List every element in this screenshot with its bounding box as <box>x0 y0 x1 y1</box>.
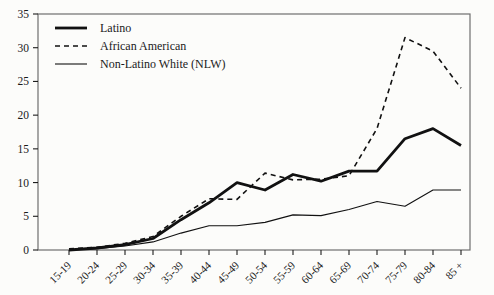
x-tick-label: 45-49 <box>215 259 242 286</box>
y-tick-label: 5 <box>23 210 29 222</box>
line-chart: 0510152025303515-1920-2425-2930-3435-394… <box>0 0 494 295</box>
x-tick-label: 80-84 <box>411 259 438 286</box>
x-tick-label: 15-19 <box>47 259 74 286</box>
y-tick-label: 15 <box>18 143 30 155</box>
y-tick-label: 0 <box>23 244 29 256</box>
legend-label-latino: Latino <box>100 21 131 35</box>
y-tick-label: 10 <box>18 177 30 189</box>
series-line-non-latino-white-nlw <box>69 190 461 250</box>
legend-label-non-latino-white-nlw: Non-Latino White (NLW) <box>100 57 226 71</box>
x-tick-label: 55-59 <box>271 259 298 286</box>
y-tick-label: 20 <box>18 109 30 121</box>
legend-label-african-american: African American <box>100 39 186 53</box>
x-tick-label: 20-24 <box>75 259 102 286</box>
figure: 0510152025303515-1920-2425-2930-3435-394… <box>0 0 494 295</box>
series-line-latino <box>69 129 461 250</box>
x-tick-label: 50-54 <box>243 259 270 286</box>
x-tick-label: 70-74 <box>355 259 382 286</box>
y-tick-label: 30 <box>18 42 30 54</box>
x-tick-label: 35-39 <box>159 259 186 286</box>
x-tick-label: 25-29 <box>103 259 130 286</box>
x-tick-label: 40-44 <box>187 259 214 286</box>
y-tick-label: 35 <box>18 8 30 20</box>
x-tick-label: 30-34 <box>131 259 158 286</box>
x-tick-label: 60-64 <box>299 259 326 286</box>
y-tick-label: 25 <box>18 75 30 87</box>
x-tick-label: 85 + <box>443 259 466 282</box>
x-tick-label: 75-79 <box>383 259 410 286</box>
x-tick-label: 65-69 <box>327 259 354 286</box>
